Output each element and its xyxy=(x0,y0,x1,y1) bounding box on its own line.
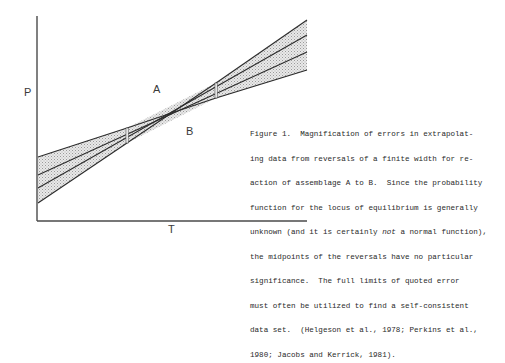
caption-line-5: unknown (and it is certainly not a norma… xyxy=(250,228,500,236)
error-envelope-left xyxy=(38,128,127,203)
figure-caption: Figure 1. Magnification of errors in ext… xyxy=(250,114,500,363)
caption-line-2: ing data from reversals of a finite widt… xyxy=(250,155,500,163)
limit-line-shallow-mid xyxy=(127,98,216,128)
reversal-bracket-1 xyxy=(126,128,128,143)
region-label-b: B xyxy=(186,126,193,137)
caption-emphasis-not: not xyxy=(382,228,396,236)
error-envelope-right xyxy=(216,20,307,98)
caption-line-6: the midpoints of the reversals have no p… xyxy=(250,253,500,261)
caption-line-5-head: unknown (and it is certainly xyxy=(250,228,382,236)
x-axis-label: T xyxy=(168,224,175,235)
y-axis-label: P xyxy=(24,87,31,98)
caption-line-9: data set. (Helgeson et al., 1978; Perkin… xyxy=(250,326,500,334)
caption-line-7: significance. The full limits of quoted … xyxy=(250,277,500,285)
caption-line-8: must often be utilized to find a self-co… xyxy=(250,302,500,310)
reversal-bracket-2 xyxy=(215,83,217,98)
caption-line-5-tail: a normal function), xyxy=(396,228,487,236)
region-label-a: A xyxy=(153,84,160,95)
caption-line-10: 1980; Jacobs and Kerrick, 1981). xyxy=(250,351,500,359)
caption-line-4: function for the locus of equilibrium is… xyxy=(250,204,500,212)
caption-line-1: Figure 1. Magnification of errors in ext… xyxy=(250,130,500,138)
caption-line-3: action of assemblage A to B. Since the p… xyxy=(250,179,500,187)
